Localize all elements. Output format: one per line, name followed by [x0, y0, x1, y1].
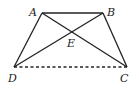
trapezoid-diagram: A B E D C [0, 0, 139, 92]
label-a: A [28, 6, 37, 19]
label-e: E [66, 37, 75, 50]
geometry-figure: A B E D C [0, 0, 139, 92]
label-d: D [7, 72, 17, 85]
label-c: C [120, 72, 129, 85]
label-b: B [106, 6, 115, 19]
diagonal-ac [42, 13, 127, 67]
